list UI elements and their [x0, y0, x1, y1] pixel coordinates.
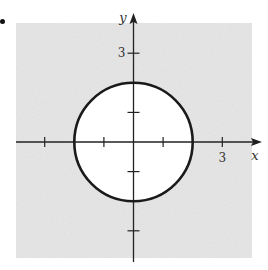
inequality-graph: 33xy [0, 0, 268, 270]
x-tick-label: 3 [218, 151, 226, 165]
y-tick-label: 3 [118, 46, 126, 60]
y-axis-label: y [118, 10, 127, 25]
x-axis-label: x [251, 148, 259, 163]
